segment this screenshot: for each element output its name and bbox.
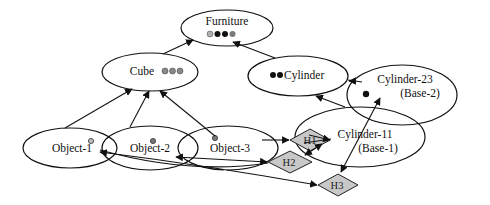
edge-object3-cube <box>160 91 215 136</box>
hypothesis-h3: H3 <box>318 174 358 196</box>
node-cylinder-23: Cylinder-23 (Base-2) <box>347 65 457 125</box>
node-label: Object-3 <box>210 142 250 155</box>
node-label: Cube <box>130 65 154 77</box>
diagram-svg: Furniture Cube Cylinder Cylinder-23 (Bas… <box>0 0 490 205</box>
node-object-1: Object-1 <box>23 128 117 168</box>
node-sublabel: (Base-2) <box>400 87 440 100</box>
node-label: Cylinder-11 <box>338 128 393 141</box>
edge-object2-h2 <box>176 157 267 162</box>
edge-cube-furniture <box>163 40 193 54</box>
edge-cylinder-furniture <box>233 42 275 58</box>
node-label: Furniture <box>206 15 249 27</box>
node-cube: Cube <box>102 53 198 91</box>
edge-object2-cube <box>130 91 149 127</box>
hypothesis-label: H3 <box>331 180 344 191</box>
edge-object1-cube <box>65 89 132 128</box>
node-label: Object-2 <box>130 142 170 155</box>
hypothesis-label: H2 <box>283 157 296 168</box>
hypothesis-graph-diagram: Furniture Cube Cylinder Cylinder-23 (Bas… <box>0 0 490 205</box>
node-furniture: Furniture <box>181 10 273 46</box>
node-label: Cylinder <box>284 69 324 82</box>
edge-cylinder11-cylinder <box>316 96 345 107</box>
node-sublabel: (Base-1) <box>358 142 398 155</box>
node-label: Cylinder-23 <box>377 73 433 86</box>
node-cylinder: Cylinder <box>248 56 348 96</box>
node-label: Object-1 <box>52 142 92 155</box>
